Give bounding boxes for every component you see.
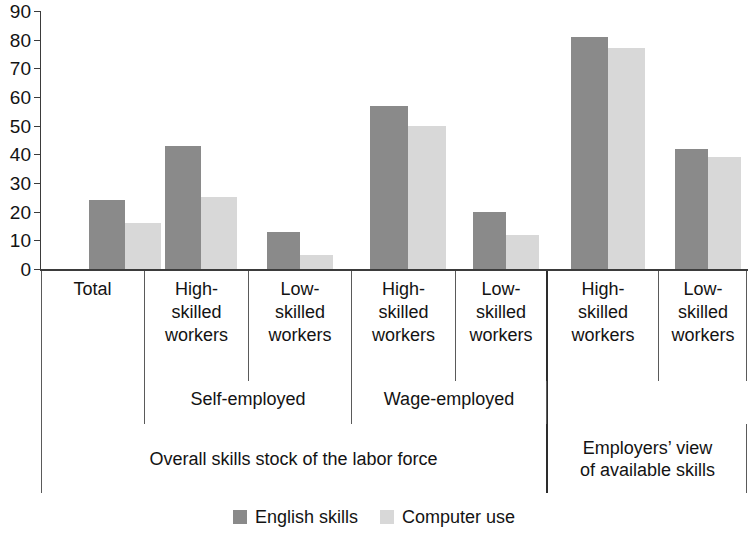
category-label-self-high: High- skilled workers	[146, 278, 247, 347]
legend-label-computer: Computer use	[402, 508, 515, 526]
legend-label-english: English skills	[255, 508, 358, 526]
category-label-line2: skilled	[549, 301, 657, 324]
bar-computer-employers-high	[608, 48, 645, 269]
group-separator	[144, 381, 145, 424]
section-label-employers-view: Employers’ view of available skills	[549, 437, 746, 481]
category-label-line1: High-	[353, 278, 454, 301]
legend-swatch-icon-computer	[380, 510, 394, 524]
bar-computer-self-low	[300, 255, 333, 269]
group-separator	[546, 381, 547, 424]
bar-computer-wage-high	[408, 126, 446, 269]
category-label-line3: workers	[660, 324, 746, 347]
bar-computer-self-high	[201, 197, 237, 269]
category-label-line2: skilled	[353, 301, 454, 324]
category-label-line3: workers	[250, 324, 350, 347]
category-separator	[144, 271, 145, 381]
category-label-line3: workers	[146, 324, 247, 347]
legend-item-computer-use[interactable]: Computer use	[380, 508, 515, 526]
section-edge-separator	[746, 424, 747, 493]
category-separator	[658, 271, 659, 381]
category-label-line1: Low-	[250, 278, 350, 301]
category-label-line3: workers	[457, 324, 545, 347]
category-label-total: Total	[42, 278, 143, 301]
category-label-line2: skilled	[146, 301, 247, 324]
plot-area	[0, 0, 748, 269]
legend-swatch-icon-english	[233, 510, 247, 524]
group-label-self-employed: Self-employed	[146, 388, 350, 410]
chart-legend: English skills Computer use	[0, 508, 748, 526]
category-label-line1: High-	[146, 278, 247, 301]
category-label-wage-low: Low- skilled workers	[457, 278, 545, 347]
bar-computer-wage-low	[506, 235, 539, 269]
category-separator	[746, 271, 747, 381]
category-label-employers-low: Low- skilled workers	[660, 278, 746, 347]
category-label-employers-high: High- skilled workers	[549, 278, 657, 347]
bar-english-wage-high	[370, 106, 408, 269]
section-label-overall-skills: Overall skills stock of the labor force	[42, 448, 545, 470]
x-axis-baseline	[40, 269, 748, 271]
category-label-line1: Total	[42, 278, 143, 301]
bar-english-self-low	[267, 232, 300, 269]
bar-computer-employers-low	[708, 157, 741, 269]
category-label-line3: workers	[549, 324, 657, 347]
category-label-self-low: Low- skilled workers	[250, 278, 350, 347]
category-separator	[351, 271, 352, 381]
category-label-line2: skilled	[457, 301, 545, 324]
category-separator	[455, 271, 456, 381]
category-label-wage-high: High- skilled workers	[353, 278, 454, 347]
group-label-wage-employed: Wage-employed	[353, 388, 545, 410]
category-label-line1: Low-	[457, 278, 545, 301]
bar-english-employers-low	[675, 149, 708, 269]
section-label-line2: of available skills	[549, 459, 746, 481]
legend-item-english-skills[interactable]: English skills	[233, 508, 358, 526]
category-label-line2: skilled	[660, 301, 746, 324]
category-separator	[248, 271, 249, 381]
bar-english-employers-high	[571, 37, 608, 269]
category-label-line1: Low-	[660, 278, 746, 301]
category-label-line2: skilled	[250, 301, 350, 324]
bar-english-wage-low	[473, 212, 506, 269]
group-separator	[351, 381, 352, 424]
bar-english-self-high	[165, 146, 201, 269]
bar-english-total	[89, 200, 125, 269]
bar-chart: 90 80 70 60 50 40 30 20 10 0	[0, 0, 748, 541]
category-label-line3: workers	[353, 324, 454, 347]
category-label-line1: High-	[549, 278, 657, 301]
section-label-line1: Employers’ view	[549, 437, 746, 459]
bar-computer-total	[125, 223, 161, 269]
